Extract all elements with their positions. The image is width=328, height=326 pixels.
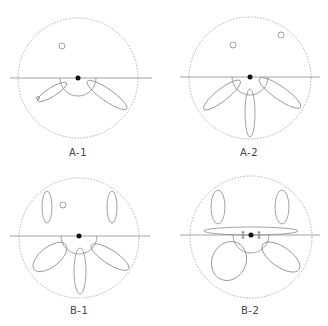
panel-b2 [180, 176, 320, 298]
small-circle [60, 202, 66, 208]
ellipse-top-right [107, 191, 117, 223]
ellipse-middle [245, 89, 255, 137]
center-dot [249, 233, 254, 238]
panel-label-b2: B-2 [241, 305, 259, 316]
ellipse-right [256, 73, 304, 112]
center-dot [76, 76, 81, 81]
ellipse-top-left [42, 191, 52, 223]
ellipse-top-right [275, 190, 289, 224]
panel-label-b1: B-1 [70, 305, 88, 316]
panel-label-a2: A-2 [240, 147, 258, 158]
caption [0, 320, 328, 326]
panel-a1 [10, 18, 152, 138]
small-circle-right [278, 32, 284, 38]
ellipse-left [200, 76, 244, 114]
ellipse-bottom-middle [74, 248, 86, 294]
center-dot [248, 75, 253, 80]
panel-b1 [10, 178, 150, 298]
diagram-canvas [0, 0, 328, 326]
ellipse-top-left [211, 190, 225, 224]
ellipse-right [84, 76, 130, 113]
panel-a2 [180, 17, 320, 139]
ellipse-bottom-left [28, 237, 72, 277]
center-dot [77, 234, 82, 239]
panel-label-a1: A-1 [69, 147, 87, 158]
ellipse-bottom-left [205, 236, 253, 287]
small-circle-left [230, 42, 236, 48]
ellipse-bottom-right [88, 239, 133, 275]
small-circle [59, 43, 65, 49]
ellipse-left [35, 79, 69, 105]
ellipse-bottom-right [257, 236, 305, 278]
